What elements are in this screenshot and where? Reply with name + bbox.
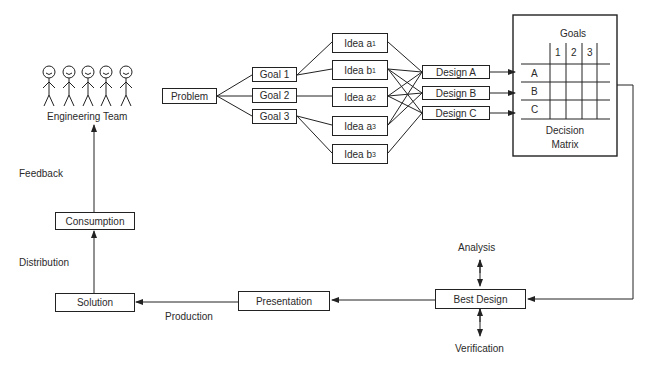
goal-3-box: Goal 3: [252, 109, 297, 124]
matrix-title: Goals: [560, 28, 586, 39]
design-a-box: Design A: [422, 65, 490, 79]
engineering-team-label: Engineering Team: [47, 111, 127, 122]
matrix-caption-1: Decision: [513, 125, 617, 136]
production-label: Production: [165, 311, 213, 322]
matrix-row-a: A: [531, 68, 538, 79]
problem-box: Problem: [162, 88, 217, 104]
verification-label: Verification: [455, 343, 504, 354]
matrix-row-c: C: [531, 104, 538, 115]
design-c-box: Design C: [422, 106, 490, 120]
matrix-caption-2: Matrix: [513, 139, 617, 150]
goal-2-box: Goal 2: [252, 88, 297, 103]
idea-b3-box: Idea b3: [332, 144, 388, 164]
best-design-box: Best Design: [435, 289, 526, 309]
feedback-label: Feedback: [19, 168, 63, 179]
matrix-col-3: 3: [587, 47, 593, 58]
matrix-row-b: B: [531, 86, 538, 97]
presentation-box: Presentation: [238, 291, 330, 311]
idea-a3-box: Idea a3: [332, 116, 388, 136]
goal-1-box: Goal 1: [252, 67, 297, 82]
consumption-box: Consumption: [55, 212, 135, 230]
engineering-team-figures: [43, 66, 132, 106]
analysis-label: Analysis: [458, 242, 495, 253]
idea-a2-box: Idea a2: [332, 87, 388, 107]
solution-box: Solution: [55, 293, 135, 312]
matrix-col-2: 2: [571, 47, 577, 58]
idea-b1-box: Idea b1: [332, 60, 388, 80]
idea-a1-box: Idea a1: [332, 33, 388, 53]
distribution-label: Distribution: [19, 257, 69, 268]
matrix-col-1: 1: [555, 47, 561, 58]
design-b-box: Design B: [422, 86, 490, 100]
